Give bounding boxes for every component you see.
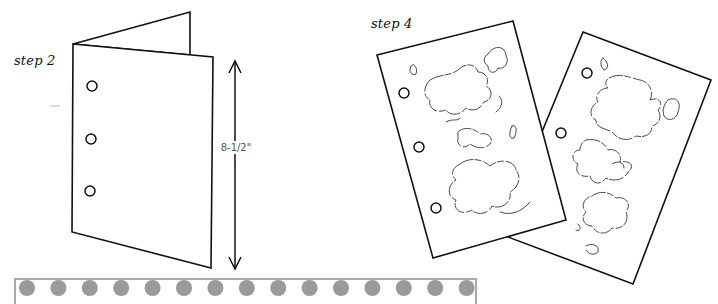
decorative-dot — [82, 280, 98, 296]
decorative-dot — [333, 280, 349, 296]
punch-hole-icon — [556, 128, 566, 138]
decorative-dot — [176, 280, 192, 296]
decorative-dot — [207, 280, 223, 296]
decorative-dot — [270, 280, 286, 296]
decorative-dot — [364, 280, 380, 296]
sheet-front — [377, 21, 566, 258]
decorative-dot — [459, 280, 475, 296]
step-4-label: step 4 — [371, 16, 413, 31]
punch-hole-icon — [86, 134, 96, 144]
decorative-dot — [50, 280, 66, 296]
punch-hole-icon — [85, 186, 95, 196]
instruction-illustration — [0, 0, 718, 304]
front-panel — [72, 44, 213, 268]
punch-hole-icon — [87, 81, 97, 91]
decorative-dot — [302, 280, 318, 296]
decorative-dot — [239, 280, 255, 296]
dimension-label: 8-1/2" — [220, 141, 252, 154]
dotted-border-strip — [15, 279, 476, 304]
decorative-dot — [427, 280, 443, 296]
decorative-dot — [396, 280, 412, 296]
decorative-dot — [19, 280, 35, 296]
step-2-label: step 2 — [14, 53, 56, 68]
punch-hole-icon — [414, 142, 424, 152]
punch-hole-icon — [431, 203, 441, 213]
decorative-dot — [145, 280, 161, 296]
folded-sheet — [72, 12, 213, 268]
punch-hole-icon — [582, 68, 592, 78]
dimension-arrow-icon — [229, 61, 241, 269]
punch-hole-icon — [399, 88, 409, 98]
decorative-dot — [113, 280, 129, 296]
